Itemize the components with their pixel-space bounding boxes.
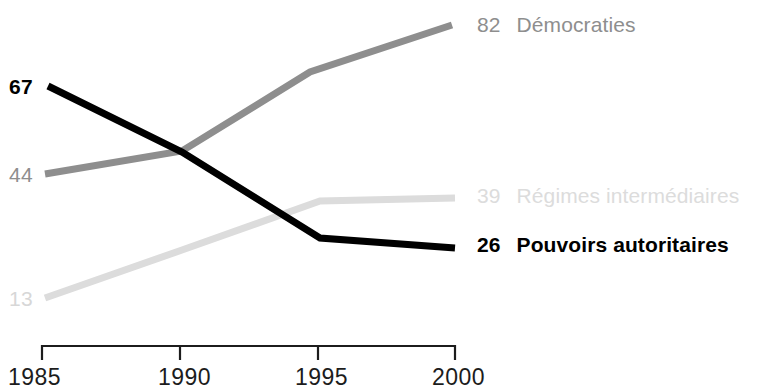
legend-item-pouvoirs-autoritaires: 26Pouvoirs autoritaires [477, 234, 729, 255]
x-axis-label-1995: 1995 [295, 366, 348, 389]
series-line-regimes-intermediaires [45, 198, 455, 298]
x-axis-label-1985: 1985 [8, 366, 61, 389]
value-label-start-democraties: 44 [9, 164, 33, 185]
legend-label-regimes-intermediaires: Régimes intermédiaires [517, 184, 740, 207]
value-label-start-pouvoirs-autoritaires: 67 [9, 76, 33, 97]
series-line-democraties [45, 25, 452, 174]
legend-label-democraties: Démocraties [517, 13, 636, 36]
chart-container: 67 44 13 82Démocraties 39Régimes intermé… [0, 0, 757, 391]
legend-item-regimes-intermediaires: 39Régimes intermédiaires [477, 185, 739, 206]
legend-label-pouvoirs-autoritaires: Pouvoirs autoritaires [517, 233, 729, 256]
legend-item-democraties: 82Démocraties [477, 14, 636, 35]
legend-value-pouvoirs-autoritaires: 26 [477, 233, 501, 256]
x-axis-label-1990: 1990 [158, 366, 211, 389]
x-axis-label-2000: 2000 [432, 366, 485, 389]
value-label-start-regimes-intermediaires: 13 [9, 288, 33, 309]
x-axis-line [42, 346, 455, 360]
legend-value-regimes-intermediaires: 39 [477, 184, 501, 207]
legend-value-democraties: 82 [477, 13, 501, 36]
